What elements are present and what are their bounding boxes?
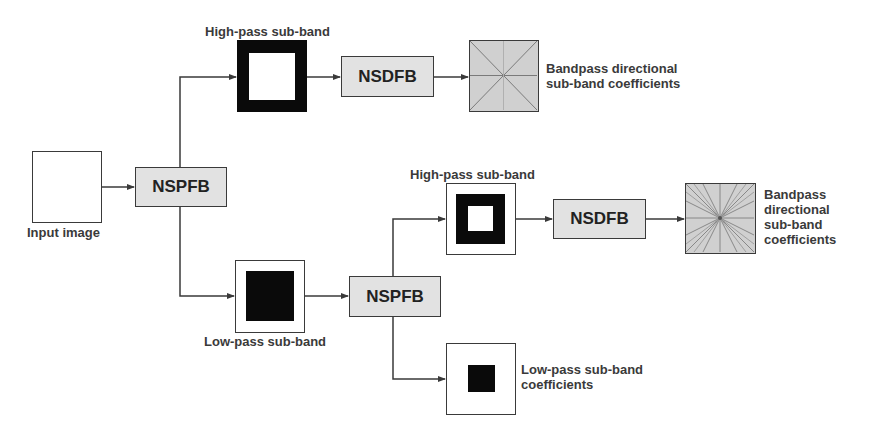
lowpass-subband-image-1 xyxy=(235,260,305,333)
bandpass-label-2-line3: sub-band xyxy=(764,217,836,232)
lowpass-coefficients-label: Low-pass sub-band coefficients xyxy=(521,362,643,392)
nspfb-block-1: NSPFB xyxy=(135,167,227,207)
lowpass-subband-label-1: Low-pass sub-band xyxy=(204,334,326,349)
directional-lines-4 xyxy=(470,41,537,110)
highpass-2-black-ring xyxy=(456,194,505,244)
bandpass-label-2-line2: directional xyxy=(764,202,836,217)
highpass-subband-image-1 xyxy=(237,40,307,112)
bandpass-label-2: Bandpass directional sub-band coefficien… xyxy=(764,187,836,247)
highpass-subband-label-1: High-pass sub-band xyxy=(205,24,330,39)
bandpass-coefficients-image-1 xyxy=(469,40,539,112)
highpass-subband-label-2: High-pass sub-band xyxy=(410,167,535,182)
lowpass-coeff-label-line1: Low-pass sub-band xyxy=(521,362,643,377)
lowpass-coeff-label-line2: coefficients xyxy=(521,377,643,392)
nspfb-block-2: NSPFB xyxy=(349,276,441,317)
nsdfb-block-2: NSDFB xyxy=(553,199,646,239)
highpass-2-inner-white xyxy=(468,206,493,231)
lowpass-coefficients-image xyxy=(446,343,516,415)
lowpass-coeff-inner-black xyxy=(468,365,495,392)
input-image-box xyxy=(32,151,102,223)
highpass-inner-white xyxy=(249,53,295,100)
bandpass-label-1: Bandpass directional sub-band coefficien… xyxy=(546,61,680,91)
bandpass-label-2-line1: Bandpass xyxy=(764,187,836,202)
bandpass-label-1-line2: sub-band coefficients xyxy=(546,76,680,91)
bandpass-label-1-line1: Bandpass directional xyxy=(546,61,680,76)
lowpass-inner-black xyxy=(246,271,294,321)
bandpass-label-2-line4: coefficients xyxy=(764,232,836,247)
directional-lines-16 xyxy=(686,184,754,252)
nsdfb-block-1: NSDFB xyxy=(341,56,434,97)
bandpass-coefficients-image-2 xyxy=(685,183,756,254)
input-image-label: Input image xyxy=(27,225,100,240)
highpass-subband-image-2 xyxy=(446,183,516,255)
